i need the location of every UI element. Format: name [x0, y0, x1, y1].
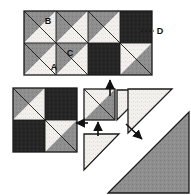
fourpatch-unit-r1c0[interactable] — [13, 120, 45, 152]
fourpatch-unit-r0c1[interactable] — [45, 88, 77, 120]
four-patch-block[interactable] — [13, 88, 77, 152]
cut-gray-triangle[interactable] — [108, 112, 189, 193]
block-unit-r1c2[interactable] — [88, 43, 120, 75]
cut-triangle-light-lower[interactable] — [84, 134, 119, 170]
finished-block[interactable] — [24, 11, 152, 75]
block-unit-r0c3[interactable] — [120, 11, 152, 43]
label-c: C — [67, 48, 74, 58]
label-a: A — [51, 62, 58, 72]
quilt-construction-diagram: B A C D — [0, 0, 191, 195]
label-b: B — [45, 16, 52, 26]
label-d: D — [157, 26, 164, 36]
figure-canvas: B A C D — [0, 0, 191, 195]
cut-light-triangle[interactable] — [128, 89, 172, 133]
